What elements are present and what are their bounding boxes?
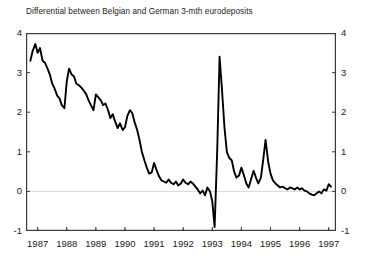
y-tick-label-right: -1 [341, 225, 363, 236]
y-tick-label-left: -1 [2, 225, 22, 236]
chart-figure: Differential between Belgian and German … [0, 0, 371, 269]
data-series-line [30, 44, 331, 227]
y-tick-label-right: 1 [341, 146, 363, 157]
y-tick-label-left: 4 [2, 27, 22, 38]
plot-svg [26, 33, 336, 231]
y-tick-label-left: 1 [2, 146, 22, 157]
x-tick-label: 1997 [312, 238, 346, 249]
plot-area [26, 33, 336, 231]
chart-title: Differential between Belgian and German … [26, 7, 253, 16]
y-tick-label-left: 3 [2, 67, 22, 78]
y-tick-label-left: 0 [2, 185, 22, 196]
plot-frame [27, 34, 336, 231]
y-tick-label-right: 2 [341, 106, 363, 117]
y-tick-label-right: 4 [341, 27, 363, 38]
y-tick-label-left: 2 [2, 106, 22, 117]
y-tick-label-right: 3 [341, 67, 363, 78]
y-tick-label-right: 0 [341, 185, 363, 196]
